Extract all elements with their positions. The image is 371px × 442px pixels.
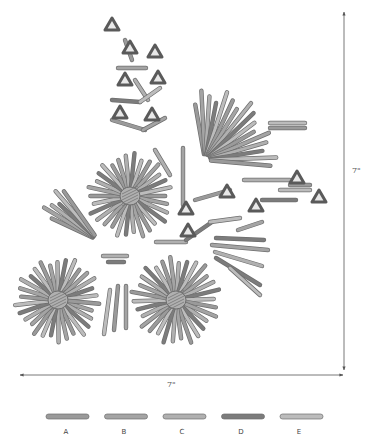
triangle-connector-icon [113, 106, 127, 118]
triangle-connector-icon [220, 185, 234, 197]
triangle-connector-icon [151, 71, 165, 83]
assembly-diagram [0, 0, 371, 442]
legend [46, 414, 323, 419]
stick-rod [212, 245, 268, 250]
triangle-connector-icon [148, 45, 162, 57]
stick-rod [112, 100, 140, 102]
width-dimension-label: 7" [167, 380, 176, 389]
legend-rod-b [105, 414, 148, 419]
triangle-connector-icon [118, 73, 132, 85]
legend-label-d: D [231, 428, 251, 436]
stick-rod [216, 238, 264, 240]
stick-rod [155, 150, 170, 175]
starburst-lower-left-rod [58, 306, 59, 342]
legend-rod-d [222, 414, 265, 419]
legend-rod-c [163, 414, 206, 419]
legend-rod-a [46, 414, 89, 419]
fan-upper-right-rod [211, 161, 270, 166]
height-dimension-label: 7" [352, 166, 361, 175]
stick-rod [114, 286, 118, 330]
triangle-connector-icon [181, 224, 195, 236]
triangle-connector-icon [145, 108, 159, 120]
starburst-lower-middle-rod [182, 299, 214, 300]
stick-rod [104, 290, 110, 334]
rod-layout [15, 40, 310, 342]
triangle-connector-icon [105, 18, 119, 30]
legend-rod-e [280, 414, 323, 419]
triangle-connector-icon [290, 171, 304, 183]
stick-rod [210, 218, 240, 222]
legend-label-b: B [114, 428, 134, 436]
legend-label-c: C [172, 428, 192, 436]
triangle-connector-icon [312, 190, 326, 202]
legend-label-e: E [289, 428, 309, 436]
stick-rod [238, 222, 262, 230]
starburst-lower-middle-rod [134, 300, 170, 301]
stick-rod [112, 120, 145, 130]
legend-label-a: A [56, 428, 76, 436]
